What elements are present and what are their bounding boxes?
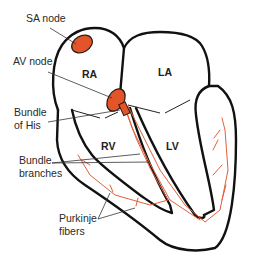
bundle-branches-leader [52, 154, 150, 163]
bundle-of-his [119, 102, 130, 116]
heart-conduction-diagram: RA LA RV LV SA node AV node Bundle of Hi… [0, 0, 253, 270]
bundle-of-his-label-1: Bundle [14, 106, 47, 118]
bundle-branches-label-1: Bundle [19, 154, 52, 166]
la-label: LA [158, 66, 172, 78]
av-node-leader [48, 72, 112, 98]
purkinje-label-2: fibers [59, 225, 85, 237]
av-node-label: AV node [13, 55, 53, 67]
lv-inner-wall [196, 86, 214, 215]
rv-label: RV [101, 140, 115, 152]
bundle-branches-label-2: branches [19, 167, 62, 179]
lv-endocardium [136, 108, 204, 218]
purkinje-label-1: Purkinje [59, 212, 97, 224]
lv-label: LV [166, 140, 179, 152]
ra-label: RA [82, 68, 98, 80]
sa-node-label: SA node [26, 12, 66, 24]
bundle-of-his-label-2: of His [14, 119, 41, 131]
